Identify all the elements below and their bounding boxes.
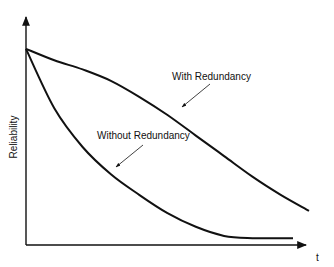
- with-redundancy-pointer: [182, 84, 210, 107]
- without-redundancy-pointer: [116, 145, 143, 167]
- reliability-chart: With Redundancy Without Redundancy Relia…: [0, 0, 334, 267]
- y-axis-label: Reliability: [8, 116, 19, 159]
- without-redundancy-label: Without Redundancy: [97, 130, 190, 141]
- x-axis-label: t: [316, 252, 319, 263]
- without-redundancy-curve: [26, 49, 293, 238]
- with-redundancy-label: With Redundancy: [172, 71, 251, 82]
